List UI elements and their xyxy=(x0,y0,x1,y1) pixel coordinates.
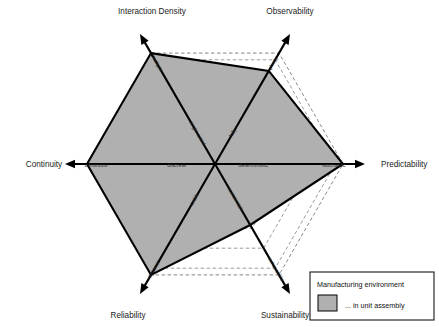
pole-label-inner-predictability: deterministic xyxy=(239,162,269,168)
axis-title-predictability: Predictability xyxy=(381,160,428,169)
pole-label-outer-observability: plenty xyxy=(267,55,279,71)
legend-series-label: ... in unit assembly xyxy=(345,301,405,310)
legend-swatch xyxy=(318,295,337,311)
radar-chart-canvas: single-sidedmultiplefullyplentydetermini… xyxy=(0,0,439,327)
pole-label-outer-predictability: stochastic xyxy=(322,162,346,168)
pole-label-inner-continuity: discrete xyxy=(167,162,186,168)
axis-title-interaction-density: Interaction Density xyxy=(118,7,187,16)
axis-title-continuity: Continuity xyxy=(26,160,63,169)
pole-label-outer-sustainability: exhaustible xyxy=(267,256,286,282)
pole-label-outer-continuity: continous xyxy=(85,162,108,168)
axis-title-observability: Observability xyxy=(266,7,314,16)
axis-title-reliability: Reliability xyxy=(110,311,146,320)
radar-chart-figure: single-sidedmultiplefullyplentydetermini… xyxy=(0,0,439,327)
axis-title-sustainability: Sustainability xyxy=(261,311,310,320)
axis-arrowhead xyxy=(65,160,75,168)
axis-arrowhead xyxy=(355,160,365,168)
legend-title: Manufacturing environment xyxy=(317,280,404,289)
legend-box: Manufacturing environment ... in unit as… xyxy=(310,272,434,320)
